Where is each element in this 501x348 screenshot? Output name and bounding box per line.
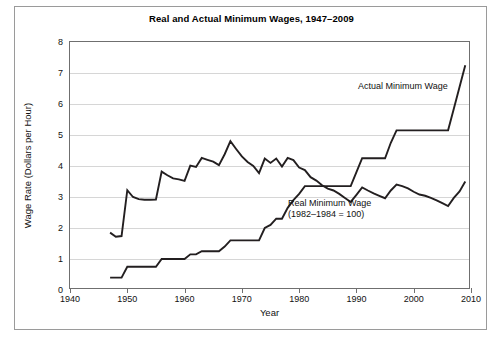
y-tick-label: 1	[58, 255, 63, 264]
x-tick-label: 2010	[461, 295, 481, 304]
y-axis-title-text: Wage Rate (Dollars per Hour)	[23, 102, 34, 227]
x-tick-label: 1990	[346, 295, 366, 304]
annotation-real-text-line2: (1982–1984 = 100)	[288, 209, 371, 220]
x-tick-label: 2000	[404, 295, 424, 304]
series-line-real-minimum-wage	[110, 141, 465, 236]
x-tick-mark	[471, 288, 472, 293]
x-tick-label: 1950	[117, 295, 137, 304]
y-tick-label: 8	[58, 38, 63, 47]
annotation-real-minimum-wage: Real Minimum Wage (1982–1984 = 100)	[288, 198, 371, 221]
x-tick-label: 1940	[60, 295, 80, 304]
annotation-real-text-line1: Real Minimum Wage	[288, 198, 371, 208]
series-line-actual-minimum-wage	[110, 65, 465, 277]
x-tick-label: 1970	[232, 295, 252, 304]
y-axis-title: Wage Rate (Dollars per Hour)	[21, 41, 35, 289]
y-tick-label: 3	[58, 193, 63, 202]
chart-title: Real and Actual Minimum Wages, 1947–2009	[15, 13, 488, 24]
series-layer	[70, 42, 471, 290]
x-tick-label: 1980	[289, 295, 309, 304]
y-tick-label: 6	[58, 100, 63, 109]
y-tick-label: 7	[58, 69, 63, 78]
y-tick-label: 4	[58, 162, 63, 171]
y-tick-label: 2	[58, 224, 63, 233]
figure-container: Real and Actual Minimum Wages, 1947–2009…	[14, 6, 487, 330]
x-axis-title: Year	[69, 307, 470, 318]
x-tick-label: 1960	[175, 295, 195, 304]
annotation-actual-minimum-wage: Actual Minimum Wage	[358, 81, 448, 92]
annotation-actual-text: Actual Minimum Wage	[358, 81, 448, 91]
plot-area: 012345678 194019501960197019801990200020…	[69, 41, 470, 289]
y-tick-label: 5	[58, 131, 63, 140]
